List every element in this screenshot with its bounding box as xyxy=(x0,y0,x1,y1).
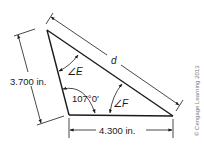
dimension-line-d-upper xyxy=(51,17,107,55)
dimension-line-left-lower xyxy=(31,86,41,123)
copyright-notice: © Cengage Learning 2013 xyxy=(194,65,200,136)
label-d: d xyxy=(111,55,117,66)
label-angle-107: 107°0′ xyxy=(72,93,99,104)
extension-line-d-bottom xyxy=(176,100,183,111)
dimension-left: 3.700 in. xyxy=(10,29,64,125)
label-bottom-side: 4.300 in. xyxy=(99,125,135,136)
extension-line-d-top xyxy=(46,13,53,24)
extension-line-left-top xyxy=(14,29,35,36)
label-angle-f: ∠F xyxy=(113,98,129,109)
angle-e-annotation: ∠E xyxy=(59,55,83,77)
angle-107-annotation: 107°0′ xyxy=(63,88,99,113)
triangle xyxy=(47,30,173,116)
dimension-line-d-lower xyxy=(121,65,179,105)
angle-f-annotation: ∠F xyxy=(110,84,129,113)
dimension-bottom: 4.300 in. xyxy=(69,118,173,138)
triangle-diagram: d 3.700 in. 4.300 in. ∠E 107°0′ ∠F © Cen… xyxy=(0,0,204,148)
extension-line-left-bottom xyxy=(37,116,64,125)
dimension-line-left-upper xyxy=(18,35,28,72)
label-left-side: 3.700 in. xyxy=(10,76,46,87)
label-angle-e: ∠E xyxy=(67,66,83,77)
side-bottom xyxy=(69,115,173,116)
